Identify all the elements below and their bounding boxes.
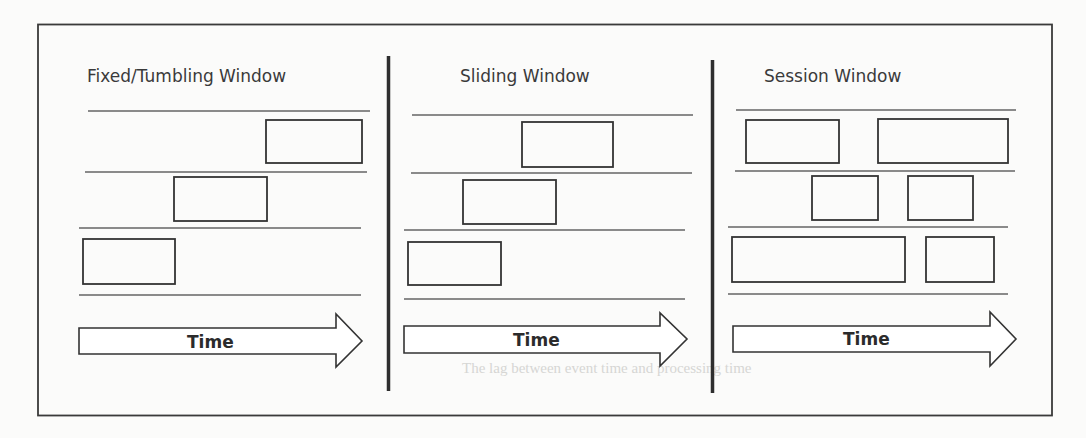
row-separator-lines (79, 111, 370, 295)
window-boxes (408, 122, 613, 285)
window-box (174, 177, 267, 221)
window-box (522, 122, 613, 167)
time-label: Time (843, 329, 890, 349)
row-separator-lines (404, 115, 693, 299)
session-box (812, 176, 878, 220)
panel-title: Session Window (764, 66, 901, 86)
window-box (83, 239, 175, 284)
panel-sliding-window: Sliding Window Time (404, 66, 693, 366)
bleed-through-text: The lag between event time and processin… (462, 360, 752, 376)
window-box (266, 120, 362, 163)
session-box (926, 237, 994, 282)
window-box (463, 180, 556, 224)
time-arrow: Time (733, 312, 1016, 366)
time-arrow: Time (79, 314, 362, 367)
time-arrow: Time (404, 313, 687, 366)
window-boxes (83, 120, 362, 284)
panel-session-window: Session Window Time (728, 66, 1016, 366)
time-label: Time (187, 332, 234, 352)
panel-title: Sliding Window (460, 66, 590, 86)
panel-title: Fixed/Tumbling Window (87, 66, 286, 86)
time-label: Time (513, 330, 560, 350)
session-box (746, 120, 839, 163)
window-box (408, 242, 501, 285)
panel-fixed-window: Fixed/Tumbling Window Time (79, 66, 370, 367)
session-box (732, 237, 905, 282)
session-box (878, 119, 1008, 163)
window-boxes (732, 119, 1008, 282)
session-box (908, 176, 973, 220)
window-types-diagram: The lag between event time and processin… (0, 0, 1086, 438)
